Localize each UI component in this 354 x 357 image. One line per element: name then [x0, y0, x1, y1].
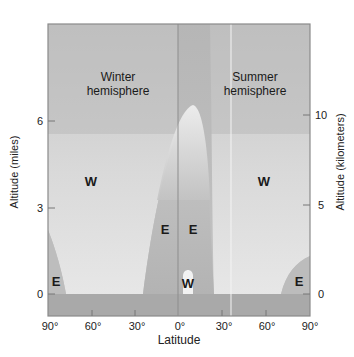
summer-label-line2: hemisphere [215, 84, 295, 98]
y-axis-right-label: Altitude (kilometers) [334, 113, 346, 210]
y-left-tick-label: 0 [37, 288, 43, 300]
x-tick-label: 90° [42, 320, 59, 332]
zone-label-equatorial-w: W [182, 276, 194, 291]
ground-band [48, 294, 310, 316]
y-axis-left-label: Altitude (miles) [8, 136, 20, 209]
summer-hemisphere-label: Summer hemisphere [215, 70, 295, 98]
zone-label-summer-polar-e: E [295, 274, 304, 289]
y-left-tick-label: 3 [37, 202, 43, 214]
x-tick-label: 30° [216, 320, 233, 332]
x-tick-label: 90° [302, 320, 319, 332]
winter-hemisphere-label: Winter hemisphere [78, 70, 158, 98]
winter-label-line1: Winter [78, 70, 158, 84]
y-right-tick-label: 5 [318, 199, 324, 211]
x-axis-label: Latitude [158, 333, 201, 347]
y-right-tick-label: 10 [315, 109, 327, 121]
y-right-tick-label: 0 [318, 288, 324, 300]
x-tick-label: 60° [85, 320, 102, 332]
diagram-canvas [0, 0, 354, 357]
zone-label-summer-w: W [258, 174, 270, 189]
zone-label-winter-tropic-e: E [161, 222, 170, 237]
wind-zones-diagram: Winter hemisphere Summer hemisphere W W … [0, 0, 354, 357]
x-tick-label: 0° [175, 320, 186, 332]
x-tick-label: 60° [259, 320, 276, 332]
summer-label-line1: Summer [215, 70, 295, 84]
x-tick-label: 30° [129, 320, 146, 332]
winter-label-line2: hemisphere [78, 84, 158, 98]
zone-label-winter-w: W [85, 174, 97, 189]
zone-label-winter-polar-e: E [52, 274, 61, 289]
zone-label-summer-tropic-e: E [189, 222, 198, 237]
y-left-tick-label: 6 [37, 115, 43, 127]
